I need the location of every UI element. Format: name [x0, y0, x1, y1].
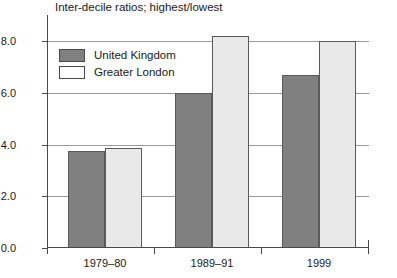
y-axis-tick-label: 6.0	[0, 87, 16, 98]
y-axis-tick-label: 4.0	[0, 139, 16, 150]
bar-uk-0	[68, 151, 105, 248]
chart-legend: United KingdomGreater London	[57, 45, 182, 83]
bar-london-0	[105, 148, 142, 248]
bar-uk-2	[282, 75, 319, 248]
x-axis-tick	[368, 248, 369, 254]
legend-item-london: Greater London	[59, 64, 176, 81]
legend-item-label: Greater London	[94, 67, 175, 79]
x-axis-line	[47, 247, 369, 248]
legend-item-label: United Kingdom	[94, 50, 176, 62]
x-axis-tick	[47, 248, 48, 254]
bar-uk-1	[175, 93, 212, 248]
legend-swatch-icon-uk	[59, 49, 85, 62]
bar-london-2	[319, 41, 356, 248]
plot-area: Inter-decile ratios; highest/lowest 0.02…	[47, 15, 369, 248]
y-axis-tick-label: 2.0	[0, 191, 16, 202]
x-axis-category-label: 1989–91	[191, 257, 234, 269]
y-axis-tick-label: 8.0	[0, 36, 16, 47]
x-axis-tick	[154, 248, 155, 254]
right-frame-edge	[368, 240, 369, 248]
x-axis-category-label: 1999	[307, 257, 331, 269]
legend-item-uk: United Kingdom	[59, 47, 176, 64]
x-axis-category-label: 1979–80	[84, 257, 127, 269]
y-axis-line	[47, 15, 48, 248]
bar-london-1	[212, 36, 249, 248]
legend-swatch-icon-london	[59, 66, 85, 79]
bar-chart: Inter-decile ratios; highest/lowest 0.02…	[0, 0, 397, 278]
x-axis-tick	[261, 248, 262, 254]
chart-title: Inter-decile ratios; highest/lowest	[55, 2, 222, 14]
y-axis-tick-label: 0.0	[0, 243, 16, 254]
